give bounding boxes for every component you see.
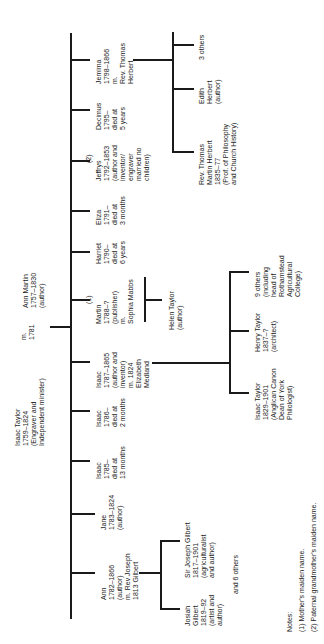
branch-isaac-1785 bbox=[70, 460, 90, 462]
child-decimus: Decimus 1795– died at 5 years bbox=[95, 103, 127, 130]
grandchild-henry: Henry Taylor 1837–? (architect) bbox=[254, 313, 278, 352]
grandchild-3-others: 3 others bbox=[198, 35, 206, 60]
herbert-trunk bbox=[172, 32, 174, 153]
child-jeffrys-note: (2) bbox=[85, 154, 93, 163]
child-jeffrys: Jeffrys 1792–1853 (author and inventor/ … bbox=[95, 145, 151, 181]
branch-isaac-1787 bbox=[70, 361, 90, 363]
branch-sir-joseph bbox=[160, 540, 180, 542]
child-eliza: Eliza 1791– died at 3 months bbox=[95, 196, 127, 225]
mother-label: Ann Martin 1757–1830 (author) bbox=[22, 273, 46, 308]
branch-thomas-martin bbox=[172, 151, 194, 153]
gilbert-others: and 6 others bbox=[232, 555, 240, 594]
branch-helen bbox=[144, 299, 162, 301]
child-jane: Jane 1783–1824 (author) bbox=[100, 495, 124, 530]
branch-henry bbox=[229, 330, 249, 332]
grandchild-sir-joseph: Sir Joseph Gilbert 1817–1901 (agricultur… bbox=[184, 522, 216, 578]
isaac-family-connector bbox=[152, 362, 230, 364]
gilbert-trunk bbox=[160, 540, 162, 610]
branch-jemima bbox=[70, 59, 90, 61]
child-harriet: Harriet 1790– died at 6 years bbox=[95, 241, 127, 264]
father-label: Isaac Taylor 1759–1824 (Engraver and Ind… bbox=[14, 378, 46, 446]
child-martin: Martin 1788–? (publisher) m. Sophia Mabb… bbox=[95, 279, 135, 324]
note-1: (1) Mother's maiden name. bbox=[298, 549, 306, 632]
branch-jane bbox=[70, 513, 95, 515]
branch-isaac-1786 bbox=[70, 410, 90, 412]
grandchild-edith: Edith Herbert (author) bbox=[198, 79, 222, 104]
child-isaac-1786: Isaac 1786– died at 2 months bbox=[95, 398, 127, 427]
child-jemima: Jemima 1798–1866 m. Rev. Thomas Herbert bbox=[95, 43, 135, 84]
isaac-family-trunk bbox=[229, 271, 231, 394]
grandchild-9-others: 9 others (including head of Rothamstead … bbox=[254, 255, 302, 297]
branch-isaac-1829 bbox=[229, 392, 249, 394]
child-isaac-1787: Isaac 1787–1865 (author and inventor) m.… bbox=[95, 352, 151, 388]
branch-edith bbox=[172, 88, 194, 90]
child-isaac-1785: Isaac 1785– died at 13 months bbox=[95, 446, 127, 479]
child-ann: Ann 1782–1866 (author) m. Rev Joseph 181… bbox=[100, 553, 140, 600]
child-martin-note: (1) bbox=[85, 295, 93, 304]
note-2: (2) Paternal grandmother's maiden name. bbox=[310, 503, 318, 632]
branch-ann bbox=[70, 572, 95, 574]
branch-9-others bbox=[229, 271, 249, 273]
marriage-label: m. 1781 bbox=[20, 324, 36, 340]
herbert-connector bbox=[133, 59, 173, 61]
grandchild-isaac-1829: Isaac Taylor 1829–1901 (Anglican Canon D… bbox=[254, 368, 294, 420]
gilbert-connector bbox=[139, 572, 160, 574]
branch-3-others bbox=[172, 44, 194, 46]
notes-heading: Notes: bbox=[286, 612, 294, 632]
branch-decimus bbox=[70, 109, 90, 111]
grandchild-josiah: Josiah Gilbert 1819–92 (artist and autho… bbox=[184, 595, 224, 626]
grandchild-helen: Helen Taylor (author) bbox=[168, 291, 184, 330]
branch-harriet bbox=[70, 251, 90, 253]
branch-eliza bbox=[70, 210, 90, 212]
marriage-connector-line bbox=[50, 326, 71, 328]
grandchild-thomas-martin: Rev. Thomas Martin Herbert 1835–77 (Prof… bbox=[198, 123, 238, 185]
branch-josiah bbox=[160, 608, 180, 610]
